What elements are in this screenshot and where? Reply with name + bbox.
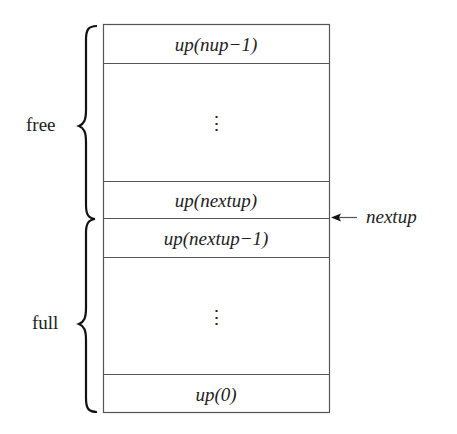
ellipsis-full: ⋮ — [207, 307, 226, 328]
ellipsis-free: ⋮ — [207, 113, 226, 134]
cell-label-top: up(nup−1) — [175, 34, 257, 56]
full-brace-icon — [79, 219, 97, 412]
free-brace-icon — [79, 26, 97, 219]
cell-label-nextup: up(nextup) — [175, 190, 257, 212]
group-label-full: full — [32, 312, 58, 333]
pointer-label-nextup: nextup — [366, 206, 417, 227]
stack-diagram: up(nup−1) ⋮ up(nextup) up(nextup−1) ⋮ up… — [0, 0, 457, 434]
group-label-free: free — [26, 114, 56, 135]
cell-label-nextup-minus-1: up(nextup−1) — [164, 228, 269, 250]
cell-label-bottom: up(0) — [195, 384, 236, 406]
